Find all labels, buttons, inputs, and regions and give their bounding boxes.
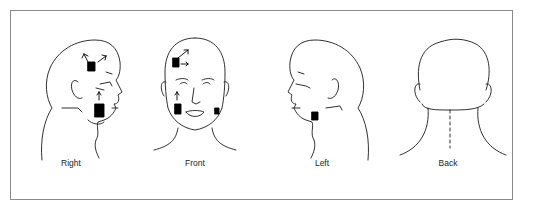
right-markings (82, 54, 106, 117)
head-back-view (400, 39, 506, 155)
label-right: Right (41, 158, 101, 168)
head-diagrams (0, 0, 538, 212)
head-left-view (288, 40, 369, 160)
label-back: Back (418, 158, 478, 168)
label-left: Left (292, 158, 352, 168)
label-front: Front (165, 158, 225, 168)
head-right-view (41, 40, 122, 160)
head-front-view (154, 38, 236, 150)
left-markings (312, 112, 318, 120)
